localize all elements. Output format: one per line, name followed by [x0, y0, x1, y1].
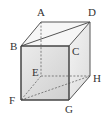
vertex-label-C: C [72, 45, 79, 57]
vertex-label-A: A [37, 6, 45, 18]
cube-diagram: A D B C E H F G [0, 0, 108, 117]
vertex-label-G: G [65, 103, 73, 115]
vertex-label-F: F [9, 94, 15, 106]
vertex-label-D: D [88, 6, 96, 18]
vertex-label-E: E [32, 66, 39, 78]
vertex-label-B: B [10, 40, 17, 52]
vertex-label-H: H [93, 72, 101, 84]
